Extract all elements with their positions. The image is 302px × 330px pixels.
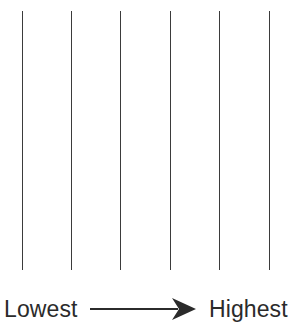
vertical-line-2 (71, 11, 72, 270)
scale-legend: Lowest Highest (0, 288, 302, 330)
vertical-line-6 (269, 11, 270, 270)
vertical-line-4 (170, 11, 171, 270)
legend-label-lowest: Lowest (4, 288, 77, 330)
vertical-line-5 (219, 11, 220, 270)
vertical-line-3 (120, 11, 121, 270)
right-arrow-icon (86, 288, 202, 330)
vertical-lines-group (0, 0, 302, 285)
vertical-line-1 (22, 11, 23, 270)
legend-label-highest: Highest (209, 288, 288, 330)
ordinal-scale-figure: Lowest Highest (0, 0, 302, 330)
